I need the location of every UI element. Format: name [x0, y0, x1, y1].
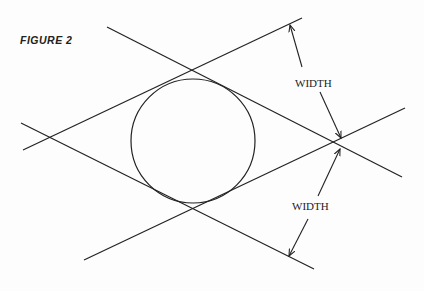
inscribed-circle: [131, 79, 255, 203]
width-label-upper: WIDTH: [295, 77, 332, 89]
width-label-lower: WIDTH: [292, 200, 329, 212]
tangent-line-left-to-lower-right: [21, 123, 314, 269]
width-arrow-lower-top: [318, 149, 340, 196]
width-arrow-lower-bottom: [289, 219, 308, 256]
tangent-line-left-to-upper-right: [23, 18, 302, 150]
tangent-line-upper-left-to-lower-right: [107, 27, 402, 177]
tangent-lines-diagram: WIDTH WIDTH: [0, 0, 424, 291]
figure-canvas: FIGURE 2 WIDTH WIDTH: [0, 0, 424, 291]
width-arrow-upper-top: [290, 25, 302, 67]
width-arrow-upper-bottom: [320, 92, 341, 138]
